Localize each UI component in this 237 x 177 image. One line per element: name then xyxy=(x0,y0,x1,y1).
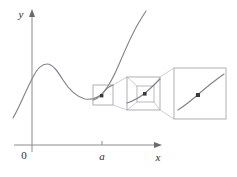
connector-1-top xyxy=(113,77,127,85)
connector-inner-tl xyxy=(127,77,137,86)
box-level-3-curve xyxy=(178,74,224,110)
box-level-2-point xyxy=(143,92,147,96)
y-axis-arrowhead xyxy=(29,9,35,17)
box-level-1-point xyxy=(100,94,103,97)
x-tick-label-a: a xyxy=(99,150,105,162)
box-level-2-curve xyxy=(127,79,160,103)
main-curve xyxy=(13,11,146,118)
magnification-figure: y x 0 a xyxy=(0,0,237,177)
connector-1-bottom xyxy=(113,105,127,110)
axes-group xyxy=(14,9,162,152)
x-axis-arrowhead xyxy=(154,142,162,148)
connector-2-top xyxy=(160,68,174,77)
figure-canvas: y x 0 a xyxy=(0,0,237,177)
origin-label: 0 xyxy=(21,149,27,161)
connector-2-bottom xyxy=(160,110,174,119)
box-level-3-group xyxy=(174,68,226,119)
x-axis-label: x xyxy=(155,151,161,163)
box-level-3-point xyxy=(196,93,200,97)
y-axis-label: y xyxy=(18,8,24,20)
box-level-1-group xyxy=(93,85,113,105)
curve-group xyxy=(13,11,146,118)
connector-inner-br xyxy=(154,102,160,110)
connector-inner-bl xyxy=(127,102,137,110)
